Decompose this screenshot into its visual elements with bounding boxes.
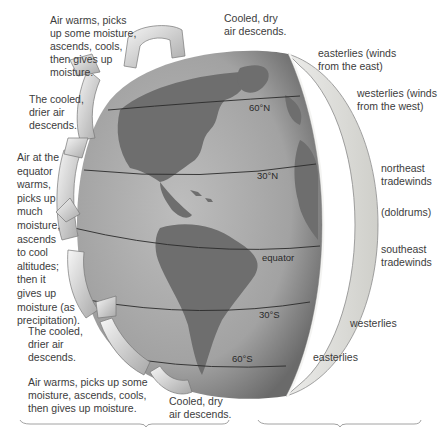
label-descend-south: The cooled, drier air descends.	[28, 325, 83, 364]
bottom-brackets	[20, 420, 421, 427]
latitude-60s: 60°S	[232, 353, 253, 364]
latitude-equator: equator	[262, 252, 294, 263]
label-doldrums: (doldrums)	[381, 206, 431, 219]
label-rise-south: Air warms, picks up some moisture, ascen…	[28, 376, 148, 415]
label-westerlies-north: westerlies (winds from the west)	[357, 87, 437, 113]
label-easterlies-north: easterlies (winds from the east)	[318, 47, 396, 73]
label-equator-rise: Air at the equator warms, picks up much …	[17, 151, 80, 328]
label-bottom-descend: Cooled, dry air descends.	[169, 395, 231, 421]
label-ne-tradewinds: northeast tradewinds	[381, 162, 432, 188]
label-descend-north: The cooled, drier air descends.	[29, 93, 84, 132]
latitude-30n: 30°N	[257, 170, 278, 181]
label-se-tradewinds: southeast tradewinds	[381, 243, 432, 269]
globe	[74, 51, 322, 399]
label-easterlies-south: easterlies	[313, 351, 358, 364]
latitude-30s: 30°S	[259, 309, 280, 320]
label-top-descend: Cooled, dry air descends.	[224, 12, 286, 38]
label-westerlies-south: westerlies	[350, 317, 397, 330]
latitude-60n: 60°N	[249, 102, 270, 113]
label-rise-north: Air warms, picks up some moisture, ascen…	[50, 14, 136, 79]
